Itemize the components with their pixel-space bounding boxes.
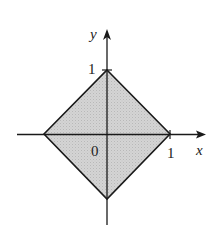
x-tick-label: 1 <box>167 145 175 161</box>
origin-label: 0 <box>91 143 99 159</box>
y-axis-label: y <box>88 26 97 42</box>
diamond-region-diagram: y 1 0 1 x <box>0 0 215 234</box>
x-axis-label: x <box>195 142 203 158</box>
y-tick-label: 1 <box>88 61 96 77</box>
